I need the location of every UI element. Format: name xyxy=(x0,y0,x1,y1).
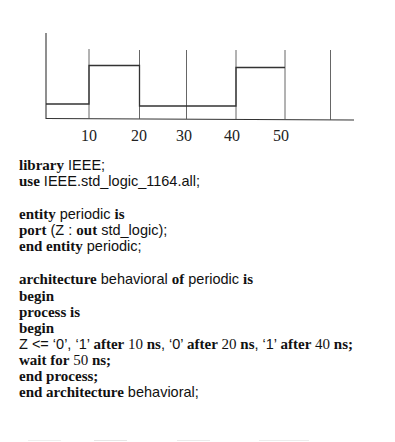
keyword: begin xyxy=(19,320,54,336)
code-line-library: library IEEE; xyxy=(19,157,389,173)
identifier: IEEE; xyxy=(64,157,105,173)
tick-label-30: 30 xyxy=(176,127,192,145)
keyword: after xyxy=(281,336,312,352)
code-line-end-entity: end entity periodic; xyxy=(19,238,389,254)
number: 10 xyxy=(124,336,147,352)
keyword: ns xyxy=(240,336,254,352)
code-line-use: use IEEE.std_logic_1164.all; xyxy=(19,173,389,189)
timing-waveform xyxy=(0,0,395,150)
identifier: , ‘0’ xyxy=(161,336,187,352)
keyword: end process; xyxy=(19,368,98,384)
identifier: periodic; xyxy=(83,238,142,254)
vhdl-code-listing: library IEEE; use IEEE.std_logic_1164.al… xyxy=(19,157,389,400)
tick-label-20: 20 xyxy=(131,127,147,145)
number: 40 xyxy=(311,336,334,352)
keyword: library xyxy=(19,157,64,173)
keyword: is xyxy=(115,206,125,222)
identifier: behavioral; xyxy=(124,384,199,400)
code-line-begin: begin xyxy=(19,288,389,304)
keyword: architecture xyxy=(19,271,97,287)
code-line-begin-process: begin xyxy=(19,320,389,336)
identifier: , ‘1’ xyxy=(254,336,280,352)
keyword: end architecture xyxy=(19,384,124,400)
x-axis xyxy=(46,119,354,121)
keyword: process is xyxy=(19,304,80,320)
time-gridlines xyxy=(89,49,331,120)
identifier: IEEE.std_logic_1164.all; xyxy=(40,173,200,189)
code-line-entity: entity periodic is xyxy=(19,206,389,222)
keyword: end entity xyxy=(19,238,83,254)
code-line-signal-assignment: Z <= ‘0’, ‘1’ after 10 ns, ‘0’ after 20 … xyxy=(19,336,389,352)
keyword: after xyxy=(93,336,124,352)
keyword: begin xyxy=(19,288,54,304)
keyword: port xyxy=(19,222,47,238)
identifier: Z <= ‘0’, ‘1’ xyxy=(19,336,93,352)
keyword: ns xyxy=(147,336,161,352)
keyword: ns; xyxy=(92,352,111,368)
code-line-end-process: end process; xyxy=(19,368,389,384)
blank-line xyxy=(19,189,389,206)
code-line-port: port (Z : out std_logic); xyxy=(19,222,389,238)
tick-label-40: 40 xyxy=(224,127,240,145)
code-line-end-architecture: end architecture behavioral; xyxy=(19,384,389,400)
number: 20 xyxy=(218,336,241,352)
scan-artifact-line xyxy=(28,440,358,441)
identifier: behavioral xyxy=(97,271,172,287)
keyword: wait for xyxy=(19,352,69,368)
keyword: out xyxy=(76,222,97,238)
code-line-wait: wait for 50 ns; xyxy=(19,352,389,368)
keyword: after xyxy=(187,336,218,352)
blank-line xyxy=(19,254,389,271)
keyword: use xyxy=(19,173,40,189)
keyword: is xyxy=(243,271,253,287)
keyword: of xyxy=(172,271,185,287)
signal-z-trace xyxy=(46,66,285,107)
number: 50 xyxy=(69,352,92,368)
identifier: std_logic); xyxy=(97,222,167,238)
code-line-process: process is xyxy=(19,304,389,320)
keyword: entity xyxy=(19,206,56,222)
code-line-architecture: architecture behavioral of periodic is xyxy=(19,271,389,287)
identifier: periodic xyxy=(184,271,243,287)
identifier: periodic xyxy=(56,206,115,222)
tick-label-50: 50 xyxy=(273,127,289,145)
tick-label-10: 10 xyxy=(81,127,97,145)
identifier: (Z : xyxy=(47,222,77,238)
keyword: ns; xyxy=(334,336,353,352)
